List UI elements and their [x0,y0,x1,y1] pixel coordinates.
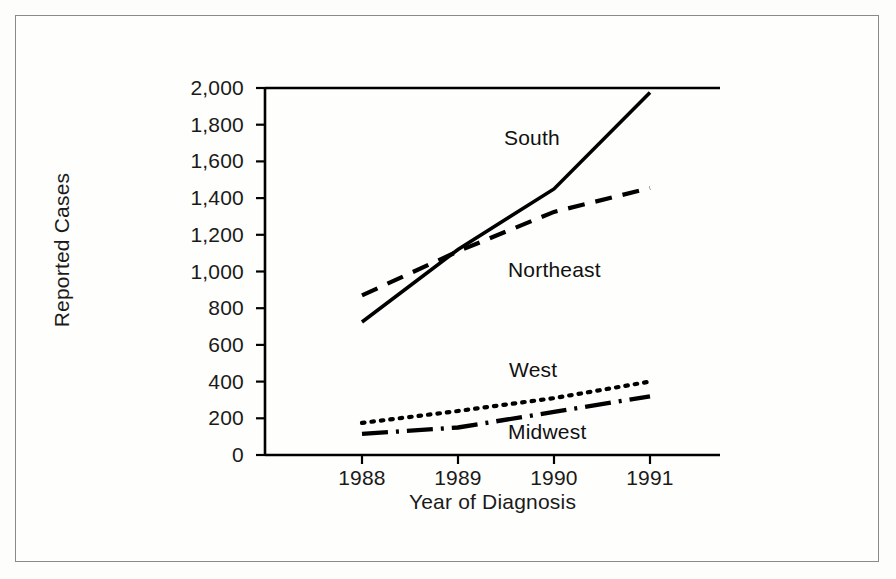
series-label-midwest: Midwest [508,420,586,444]
y-tick-marks [256,88,265,455]
ytick-label-200: 200 [160,406,244,430]
ytick-label-400: 400 [160,370,244,394]
ytick-label-0: 0 [160,443,244,467]
x-tick-marks [362,455,650,464]
ytick-label-1400: 1,400 [160,186,244,210]
xtick-label-1991: 1991 [610,466,690,490]
x-axis-title: Year of Diagnosis [265,490,720,514]
series-label-northeast: Northeast [508,258,601,282]
figure: 2,000 1,800 1,600 1,400 1,200 1,000 800 … [0,0,896,579]
y-axis-title: Reported Cases [50,120,74,380]
xtick-label-1989: 1989 [418,466,498,490]
ytick-label-1800: 1,800 [160,113,244,137]
series-line-midwest [362,396,650,434]
series-label-south: South [504,126,560,150]
ytick-label-600: 600 [160,333,244,357]
ytick-label-1200: 1,200 [160,223,244,247]
xtick-label-1990: 1990 [514,466,594,490]
series-line-northeast [362,188,650,295]
ytick-label-1000: 1,000 [160,260,244,284]
series-label-west: West [509,358,557,382]
ytick-label-1600: 1,600 [160,149,244,173]
ytick-label-2000: 2,000 [160,76,244,100]
line-chart: 2,000 1,800 1,600 1,400 1,200 1,000 800 … [0,0,896,579]
ytick-label-800: 800 [160,296,244,320]
xtick-label-1988: 1988 [322,466,402,490]
